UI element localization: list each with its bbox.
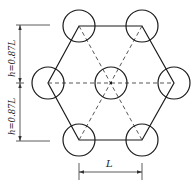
hexagon-diagram: h=0.87L h=0.87L L [0,0,195,185]
spacing-label: L [105,158,113,169]
center-dot [110,82,112,84]
upper-height-label: h=0.87L [7,39,17,77]
lower-height-label: h=0.87L [7,97,17,135]
height-dimension [16,25,50,141]
